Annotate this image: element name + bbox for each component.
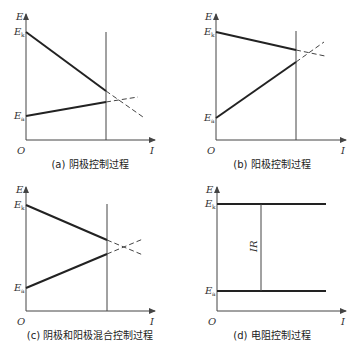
caption-a: (a) 阴极控制过程 [51,158,128,170]
origin-label: O [207,145,215,156]
panel-a: E I O E k E a (a) 阴极控制过程 [13,11,155,170]
ea-subscript: a [21,287,25,294]
ea-subscript: a [211,117,215,124]
panel-d: E I O E k E a IR (d) 电阻控制过程 [204,184,346,341]
cathode-extension [106,91,143,117]
ek-subscript: k [211,31,215,38]
y-axis-label: E [204,11,213,22]
anode-extension [296,42,324,62]
caption-c: (c) 阴极和阳极混合控制过程 [27,329,153,341]
x-axis-label: I [340,145,346,156]
ir-label: IR [248,240,259,253]
x-axis-label: I [149,145,155,156]
x-axis-label: I [149,316,155,327]
x-axis-label: I [340,316,346,327]
anode-extension [106,97,138,102]
cathode-polarization-curve [216,32,296,50]
ea-subscript: a [212,290,216,297]
caption-b: (b) 阳极控制过程 [233,158,310,170]
corrosion-control-diagram: E I O E k E a (a) 阴极控制过程 E I O E k E a (… [0,0,361,355]
anode-extension [107,239,143,254]
y-axis-label: E [15,184,24,195]
panel-c: E I O E k E a (c) 阴极和阳极混合控制过程 [13,184,155,341]
origin-label: O [17,316,25,327]
ek-subscript: k [21,31,25,38]
ek-subscript: k [21,204,25,211]
cathode-extension [296,50,325,56]
anode-polarization-curve [216,62,296,118]
ek-subscript: k [212,203,216,210]
origin-label: O [208,316,216,327]
y-axis-label: E [205,184,214,195]
origin-label: O [17,145,25,156]
anode-polarization-curve [26,254,107,288]
cathode-polarization-curve [26,205,107,240]
cathode-extension [107,240,143,255]
anode-polarization-curve [26,102,106,116]
cathode-polarization-curve [26,32,106,91]
panel-b: E I O E k E a (b) 阳极控制过程 [203,11,346,170]
caption-d: (d) 电阻控制过程 [233,329,310,341]
ea-subscript: a [21,115,25,122]
y-axis-label: E [15,11,24,22]
